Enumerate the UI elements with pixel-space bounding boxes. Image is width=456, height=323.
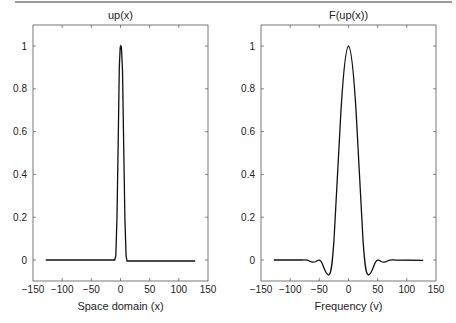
plot-title: up(x) xyxy=(108,9,133,21)
svg-text:0.4: 0.4 xyxy=(13,169,27,180)
svg-text:0: 0 xyxy=(118,284,124,295)
svg-text:0: 0 xyxy=(346,284,352,295)
y-tick-marks xyxy=(33,46,208,260)
svg-text:−150: −150 xyxy=(22,284,45,295)
y-tick-marks xyxy=(261,46,436,260)
svg-text:150: 150 xyxy=(428,284,445,295)
plot-frequency-domain: F(up(x)) −150 −100 −50 0 50 100 150 xyxy=(241,9,445,312)
up-curve xyxy=(46,46,195,261)
x-tick-marks xyxy=(290,25,407,281)
svg-text:0.6: 0.6 xyxy=(13,126,27,137)
svg-text:150: 150 xyxy=(200,284,217,295)
svg-text:0.2: 0.2 xyxy=(241,212,255,223)
plot-title: F(up(x)) xyxy=(329,9,368,21)
svg-text:−100: −100 xyxy=(279,284,302,295)
svg-text:50: 50 xyxy=(144,284,156,295)
svg-text:0.8: 0.8 xyxy=(241,83,255,94)
axes-frame xyxy=(261,25,436,281)
x-axis-label: Frequency (v) xyxy=(315,300,383,312)
x-tick-marks xyxy=(62,25,179,281)
svg-text:0: 0 xyxy=(21,255,27,266)
x-tick-labels: −150 −100 −50 0 50 100 150 xyxy=(22,284,217,295)
y-tick-labels: 0 0.2 0.4 0.6 0.8 1 xyxy=(13,41,27,266)
svg-text:−50: −50 xyxy=(83,284,100,295)
figure: up(x) −150 −100 −50 0 50 100 150 xyxy=(0,0,456,323)
svg-text:−50: −50 xyxy=(311,284,328,295)
svg-text:−150: −150 xyxy=(250,284,273,295)
svg-text:0.2: 0.2 xyxy=(13,212,27,223)
svg-text:0.6: 0.6 xyxy=(241,126,255,137)
svg-text:100: 100 xyxy=(398,284,415,295)
fourier-curve xyxy=(274,46,423,275)
plot-space-domain: up(x) −150 −100 −50 0 50 100 150 xyxy=(13,9,217,312)
x-axis-label: Space domain (x) xyxy=(77,300,163,312)
y-tick-labels: 0 0.2 0.4 0.6 0.8 1 xyxy=(241,41,255,266)
svg-text:0.4: 0.4 xyxy=(241,169,255,180)
axes-frame xyxy=(33,25,208,281)
svg-text:1: 1 xyxy=(249,41,255,52)
x-tick-labels: −150 −100 −50 0 50 100 150 xyxy=(250,284,445,295)
svg-text:1: 1 xyxy=(21,41,27,52)
svg-text:0: 0 xyxy=(249,255,255,266)
svg-text:50: 50 xyxy=(372,284,384,295)
svg-text:−100: −100 xyxy=(51,284,74,295)
svg-text:100: 100 xyxy=(170,284,187,295)
svg-text:0.8: 0.8 xyxy=(13,83,27,94)
